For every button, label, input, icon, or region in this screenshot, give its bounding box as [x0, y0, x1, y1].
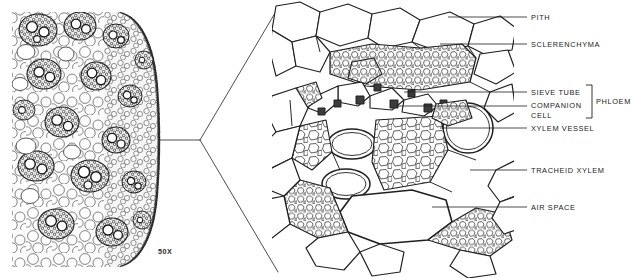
label-sclerenchyma: SCLERENCHYMA: [531, 40, 600, 49]
label-sieve-tube: SIEVE TUBE: [531, 88, 581, 97]
label-xylem-vessel: XYLEM VESSEL: [531, 124, 594, 133]
label-companion-cell: COMPANION: [531, 101, 582, 110]
label-phloem: PHLOEM: [596, 97, 631, 106]
label-companion-cell-line2: CELL: [531, 111, 552, 120]
phloem-bracket-shape: [586, 85, 592, 118]
label-pith: PITH: [531, 13, 550, 22]
label-air-space: AIR SPACE: [531, 203, 575, 212]
label-tracheid-xylem: TRACHEID XYLEM: [531, 166, 605, 175]
